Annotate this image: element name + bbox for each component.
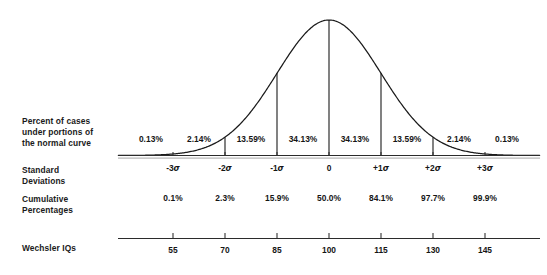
band-percent-label: 13.59% bbox=[237, 134, 266, 144]
wechsler-iq-label: 70 bbox=[220, 245, 229, 255]
band-percent-label: 34.13% bbox=[289, 134, 318, 144]
sigma-axis-label: -3σ bbox=[166, 163, 180, 173]
wechsler-iq-label: 55 bbox=[168, 245, 177, 255]
cumulative-percentage-label: 2.3% bbox=[215, 193, 234, 203]
cumulative-percentage-label: 97.7% bbox=[421, 193, 445, 203]
wechsler-iq-label: 145 bbox=[478, 245, 492, 255]
cumulative-percentage-label: 84.1% bbox=[369, 193, 393, 203]
sigma-axis-label: +1σ bbox=[373, 163, 389, 173]
sigma-axis-label: -2σ bbox=[218, 163, 232, 173]
cumulative-percentage-label: 99.9% bbox=[473, 193, 497, 203]
wechsler-iq-label: 130 bbox=[426, 245, 440, 255]
band-percent-label: 34.13% bbox=[341, 134, 370, 144]
wechsler-iq-label: 100 bbox=[322, 245, 336, 255]
sigma-axis-label: +3σ bbox=[477, 163, 493, 173]
wechsler-iq-label: 115 bbox=[374, 245, 388, 255]
band-percent-label: 2.14% bbox=[187, 134, 211, 144]
band-percent-label: 13.59% bbox=[393, 134, 422, 144]
sigma-axis-label: -1σ bbox=[270, 163, 284, 173]
band-percent-label: 0.13% bbox=[495, 134, 519, 144]
sigma-axis-label: 0 bbox=[327, 163, 332, 173]
cumulative-percentage-label: 15.9% bbox=[265, 193, 289, 203]
wechsler-iq-label: 85 bbox=[272, 245, 281, 255]
cumulative-percentage-label: 50.0% bbox=[317, 193, 341, 203]
sigma-axis-label: +2σ bbox=[425, 163, 441, 173]
cumulative-percentage-label: 0.1% bbox=[163, 193, 182, 203]
band-percent-label: 2.14% bbox=[447, 134, 471, 144]
normal-curve-figure: Percent of cases under portions of the n… bbox=[0, 0, 547, 275]
band-percent-label: 0.13% bbox=[139, 134, 163, 144]
